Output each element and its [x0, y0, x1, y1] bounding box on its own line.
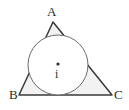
vertex-label-c: C — [114, 88, 123, 101]
vertex-label-a: A — [47, 5, 56, 18]
incenter-point-dot — [56, 62, 59, 65]
geometry-canvas — [0, 0, 129, 110]
vertex-label-b: B — [9, 88, 18, 101]
incenter-label: i — [55, 68, 58, 80]
inscribed-circle-figure: A B C i — [0, 0, 129, 110]
